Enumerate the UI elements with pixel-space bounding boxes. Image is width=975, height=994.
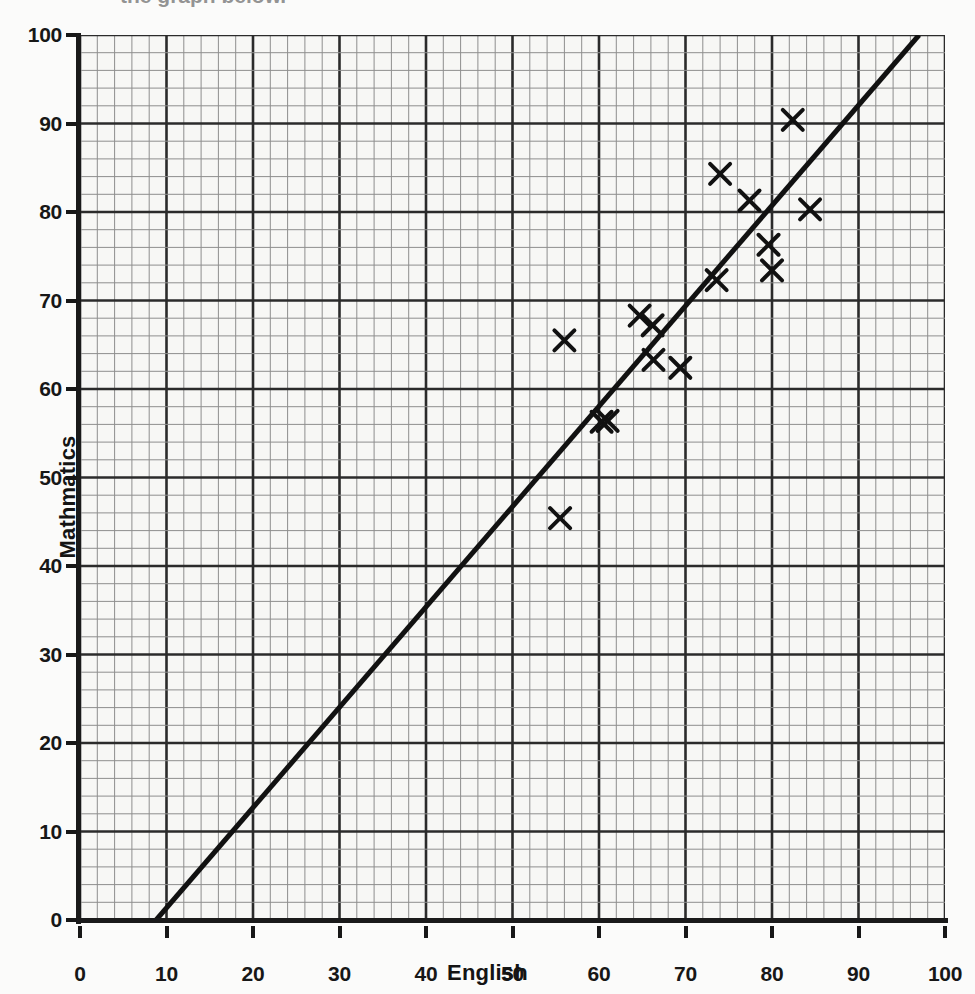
data-layer	[80, 35, 945, 920]
x-tick-mark	[943, 926, 947, 938]
x-tick-mark	[78, 926, 82, 938]
x-tick-mark	[684, 926, 688, 938]
y-tick-label: 20	[39, 731, 62, 755]
y-tick-mark	[66, 918, 77, 922]
x-tick-mark	[597, 926, 601, 938]
y-tick-mark	[66, 33, 77, 37]
x-tick-mark	[857, 926, 861, 938]
y-tick-label: 30	[39, 643, 62, 667]
x-tick-mark	[338, 926, 342, 938]
y-tick-label: 90	[39, 112, 62, 136]
y-axis-title: Mathmatics	[55, 435, 81, 558]
y-tick-label: 0	[51, 908, 62, 932]
x-tick-mark	[165, 926, 169, 938]
y-tick-label: 100	[28, 23, 62, 47]
y-tick-label: 80	[39, 200, 62, 224]
x-tick-mark	[251, 926, 255, 938]
scatter-plot-figure: 0102030405060708090100 01020304050607080…	[0, 0, 975, 994]
y-tick-mark	[66, 122, 77, 126]
y-tick-mark	[66, 830, 77, 834]
y-tick-label: 10	[39, 820, 62, 844]
y-tick-label: 60	[39, 377, 62, 401]
y-tick-mark	[66, 741, 77, 745]
y-tick-label: 70	[39, 289, 62, 313]
y-tick-mark	[66, 210, 77, 214]
x-tick-mark	[511, 926, 515, 938]
y-tick-mark	[66, 653, 77, 657]
y-tick-mark	[66, 299, 77, 303]
x-axis-title: English	[0, 960, 975, 986]
x-tick-mark	[424, 926, 428, 938]
x-axis-spine	[76, 918, 948, 923]
y-tick-mark	[66, 564, 77, 568]
x-tick-mark	[770, 926, 774, 938]
y-tick-mark	[66, 387, 77, 391]
plot-area	[80, 35, 945, 920]
